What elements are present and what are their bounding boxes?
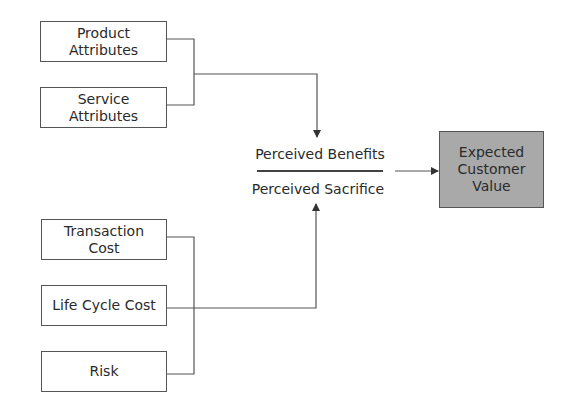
risk-box: Risk	[41, 351, 167, 392]
perceived-benefits-label: Perceived Benefits	[245, 146, 395, 162]
life-cycle-cost-box: Life Cycle Cost	[41, 285, 167, 326]
box-label-line: Attributes	[69, 108, 138, 125]
sacrifice-connector	[167, 204, 316, 374]
box-label-line: Cost	[64, 240, 144, 257]
expected-customer-value-box: Expected Customer Value	[439, 131, 544, 208]
benefits-connector	[167, 39, 317, 137]
service-attributes-box: Service Attributes	[40, 87, 167, 128]
product-attributes-box: Product Attributes	[40, 21, 167, 62]
box-label-line: Expected	[457, 144, 525, 161]
perceived-sacrifice-label: Perceived Sacrifice	[243, 181, 393, 197]
box-label-line: Value	[457, 178, 525, 195]
box-label-line: Transaction	[64, 223, 144, 240]
box-label-line: Attributes	[69, 42, 138, 59]
box-label-line: Risk	[89, 363, 118, 380]
box-label-line: Service	[69, 91, 138, 108]
box-label-line: Product	[69, 25, 138, 42]
transaction-cost-box: Transaction Cost	[41, 219, 167, 260]
box-label-line: Customer	[457, 161, 525, 178]
box-label-line: Life Cycle Cost	[52, 297, 156, 314]
